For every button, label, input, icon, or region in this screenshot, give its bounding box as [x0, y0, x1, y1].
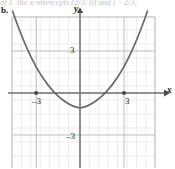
y-axis — [77, 8, 83, 169]
y-tick-label-pos3: 3 — [70, 45, 75, 55]
x-axis-label: x — [167, 85, 172, 95]
figure-container: of 1. the x-intercepts (2/3, 0) and ( −2… — [0, 0, 175, 168]
parabola-plot: y x –3 3 3 –3 — [0, 0, 175, 168]
x-intercept-marker-left — [34, 91, 38, 95]
x-intercept-marker-right — [122, 91, 126, 95]
y-tick-label-neg3: –3 — [66, 131, 75, 141]
x-tick-label-neg3: –3 — [32, 96, 41, 106]
x-tick-label-pos3: 3 — [125, 96, 130, 106]
y-axis-label: y — [74, 4, 78, 14]
plot-svg — [0, 0, 175, 168]
